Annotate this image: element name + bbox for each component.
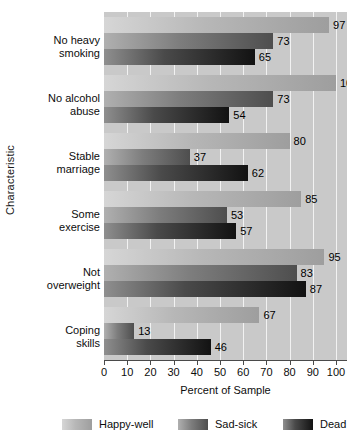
bar-sad-sick-2 [104, 149, 190, 165]
x-tick-label-40: 40 [191, 366, 203, 378]
bar-value-dead-3: 57 [240, 223, 252, 239]
bar-group-coping-skills: 671346 [104, 302, 347, 360]
x-tick-30 [174, 360, 175, 365]
category-label-line2: smoking [16, 47, 100, 60]
x-tick-label-10: 10 [121, 366, 133, 378]
bar-value-sad-sick-0: 73 [277, 33, 289, 49]
category-label-line2: exercise [16, 221, 100, 234]
bar-dead-1 [104, 107, 229, 123]
y-axis-title-text: Characteristic [4, 145, 16, 215]
bar-sad-sick-1 [104, 91, 273, 107]
x-tick-0 [104, 360, 105, 365]
legend-label-dead: Dead [320, 418, 346, 430]
category-label-line1: Some [16, 208, 100, 221]
x-tick-40 [197, 360, 198, 365]
bar-sad-sick-5 [104, 323, 134, 339]
bar-dead-3 [104, 223, 236, 239]
bar-group-no-alcohol-abuse: 1007354 [104, 70, 347, 128]
bar-value-dead-1: 54 [233, 107, 245, 123]
category-label-line2: abuse [16, 105, 100, 118]
legend-item-happy-well: Happy-well [62, 416, 153, 432]
category-label-line1: Not [16, 266, 100, 279]
happy-well-swatch-icon [62, 419, 92, 430]
bar-sad-sick-4 [104, 265, 297, 281]
bar-happy-well-4 [104, 249, 324, 265]
x-tick-label-50: 50 [214, 366, 226, 378]
bar-chart: Characteristic No heavy smoking No alcoh… [0, 0, 364, 445]
bar-dead-2 [104, 165, 248, 181]
bar-happy-well-1 [104, 75, 336, 91]
bar-sad-sick-0 [104, 33, 273, 49]
plot-area: 977365 1007354 803762 855357 958387 6713… [104, 12, 347, 360]
category-label-line2: marriage [16, 163, 100, 176]
bar-value-sad-sick-4: 83 [301, 265, 313, 281]
x-tick-20 [150, 360, 151, 365]
bar-value-happy-well-0: 97 [333, 17, 345, 33]
bar-value-happy-well-4: 95 [328, 249, 340, 265]
bar-value-happy-well-1: 100 [340, 75, 347, 91]
category-label-stable-marriage: Stable marriage [16, 150, 100, 175]
category-label-not-overweight: Not overweight [16, 266, 100, 291]
x-tick-label-80: 80 [283, 366, 295, 378]
legend-label-sad-sick: Sad-sick [215, 418, 257, 430]
bar-group-no-heavy-smoking: 977365 [104, 12, 347, 70]
bar-value-dead-5: 46 [215, 339, 227, 355]
category-label-line1: Coping [16, 324, 100, 337]
bar-happy-well-2 [104, 133, 290, 149]
category-label-line1: Stable [16, 150, 100, 163]
bar-sad-sick-3 [104, 207, 227, 223]
x-tick-label-0: 0 [101, 366, 107, 378]
category-label-some-exercise: Some exercise [16, 208, 100, 233]
x-tick-label-90: 90 [307, 366, 319, 378]
category-label-list: No heavy smoking No alcohol abuse Stable… [18, 12, 102, 360]
bar-dead-5 [104, 339, 211, 355]
bar-value-sad-sick-2: 37 [194, 149, 206, 165]
legend-item-dead: Dead [283, 416, 346, 432]
category-label-line1: No alcohol [16, 92, 100, 105]
bar-dead-4 [104, 281, 306, 297]
x-tick-80 [290, 360, 291, 365]
legend-item-sad-sick: Sad-sick [178, 416, 257, 432]
category-label-line2: skills [16, 337, 100, 350]
category-label-no-alcohol-abuse: No alcohol abuse [16, 92, 100, 117]
bar-value-sad-sick-3: 53 [231, 207, 243, 223]
category-label-coping-skills: Coping skills [16, 324, 100, 349]
bar-group-some-exercise: 855357 [104, 186, 347, 244]
bar-happy-well-0 [104, 17, 329, 33]
bar-value-happy-well-5: 67 [263, 307, 275, 323]
x-tick-label-100: 100 [327, 366, 345, 378]
x-tick-100 [336, 360, 337, 365]
x-tick-50 [220, 360, 221, 365]
category-label-line1: No heavy [16, 34, 100, 47]
x-axis-title: Percent of Sample [104, 384, 347, 396]
dead-swatch-icon [283, 419, 313, 430]
bar-group-not-overweight: 958387 [104, 244, 347, 302]
chart-legend: Happy-well Sad-sick Dead [0, 416, 364, 438]
x-tick-label-30: 30 [167, 366, 179, 378]
bar-value-happy-well-3: 85 [305, 191, 317, 207]
x-tick-label-60: 60 [237, 366, 249, 378]
legend-label-happy-well: Happy-well [99, 418, 153, 430]
bar-dead-0 [104, 49, 255, 65]
bar-group-stable-marriage: 803762 [104, 128, 347, 186]
x-tick-60 [243, 360, 244, 365]
bar-value-happy-well-2: 80 [294, 133, 306, 149]
category-label-line2: overweight [16, 279, 100, 292]
bar-value-dead-2: 62 [252, 165, 264, 181]
bar-value-dead-0: 65 [259, 49, 271, 65]
x-tick-10 [127, 360, 128, 365]
x-axis-line [104, 360, 347, 361]
bar-happy-well-3 [104, 191, 301, 207]
bar-value-sad-sick-5: 13 [138, 323, 150, 339]
x-tick-label-70: 70 [260, 366, 272, 378]
sad-sick-swatch-icon [178, 419, 208, 430]
bar-value-dead-4: 87 [310, 281, 322, 297]
x-tick-90 [313, 360, 314, 365]
x-tick-70 [266, 360, 267, 365]
category-label-no-heavy-smoking: No heavy smoking [16, 34, 100, 59]
bar-happy-well-5 [104, 307, 259, 323]
x-tick-label-20: 20 [144, 366, 156, 378]
bar-value-sad-sick-1: 73 [277, 91, 289, 107]
